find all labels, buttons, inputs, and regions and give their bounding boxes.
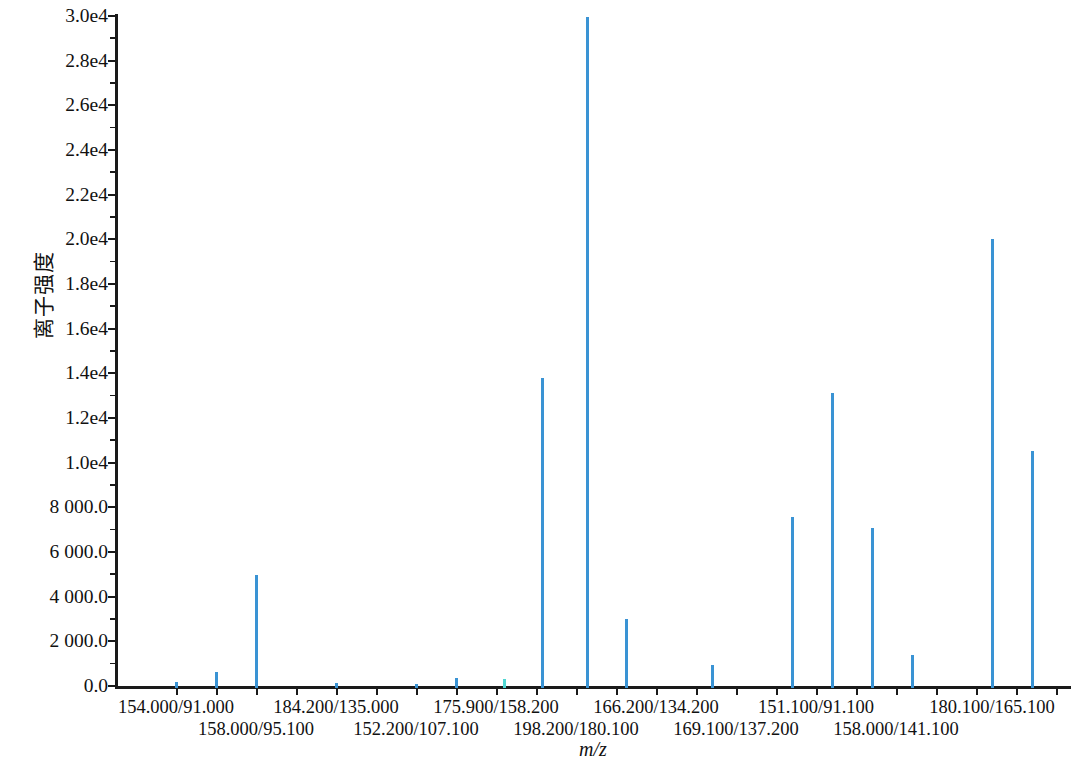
spectrum-peak <box>1031 451 1034 688</box>
y-axis-tick-label: 2.8e4 <box>2 51 108 71</box>
x-axis-tick <box>856 687 858 695</box>
y-axis-tick-label: 2.2e4 <box>2 185 108 205</box>
y-axis-tick-label: 2.6e4 <box>2 95 108 115</box>
spectrum-peak <box>871 528 874 688</box>
y-axis-tick-label: 0.0 <box>2 676 108 696</box>
y-axis-tick-label: 1.6e4 <box>2 319 108 339</box>
y-axis-tick-label: 3.0e4 <box>2 6 108 26</box>
spectrum-peak <box>831 393 834 688</box>
x-axis-line <box>115 686 1071 689</box>
x-axis-tick <box>576 687 578 695</box>
x-axis-tick <box>416 687 418 695</box>
y-axis-tick-label: 2 000.0 <box>2 631 108 651</box>
y-axis-tick-label: 8 000.0 <box>2 497 108 517</box>
x-axis-tick <box>376 687 378 695</box>
x-axis-tick <box>176 687 178 695</box>
x-axis-tick <box>536 687 538 695</box>
x-axis-tick-label: 180.100/165.100 <box>929 697 1054 717</box>
x-axis-tick <box>936 687 938 695</box>
spectrum-peak <box>911 655 914 689</box>
spectrum-peak <box>541 378 544 688</box>
y-axis-tick-label: 1.8e4 <box>2 274 108 294</box>
x-axis-tick <box>696 687 698 695</box>
spectrum-peak <box>791 517 794 688</box>
x-axis-tick <box>656 687 658 695</box>
x-axis-tick-label: 154.000/91.000 <box>118 697 234 717</box>
x-axis-tick <box>976 687 978 695</box>
y-axis-tick-label: 1.4e4 <box>2 363 108 383</box>
x-axis-tick-label: 152.200/107.100 <box>353 719 478 739</box>
y-axis-tick-label: 2.0e4 <box>2 229 108 249</box>
y-axis-tick-label: 1.0e4 <box>2 453 108 473</box>
x-axis-tick <box>256 687 258 695</box>
x-axis-tick <box>336 687 338 695</box>
y-axis-tick-layer: 3.0e42.8e42.6e42.4e42.2e42.0e41.8e41.6e4… <box>0 0 108 759</box>
y-axis-tick-label: 2.4e4 <box>2 140 108 160</box>
x-axis-tick <box>736 687 738 695</box>
x-axis-tick <box>1016 687 1018 695</box>
x-axis-tick <box>816 687 818 695</box>
x-axis-tick-label: 158.000/95.100 <box>198 719 314 739</box>
spectrum-peak <box>255 575 258 688</box>
x-axis-tick <box>216 687 218 695</box>
spectrum-peak <box>991 239 994 688</box>
x-axis-tick-label: 169.100/137.200 <box>673 719 798 739</box>
spectrum-peak <box>175 682 178 688</box>
x-axis-tick <box>896 687 898 695</box>
spectrum-peak <box>625 619 628 688</box>
spectrum-peak <box>455 678 458 688</box>
x-axis-tick-label: 166.200/134.200 <box>593 697 718 717</box>
y-axis-tick-label: 1.2e4 <box>2 408 108 428</box>
x-axis-tick-label: 184.200/135.000 <box>273 697 398 717</box>
x-axis-tick-label: 158.000/141.100 <box>833 719 958 739</box>
x-axis-tick <box>1056 687 1058 695</box>
mass-spectrum-chart: 离子强度 3.0e42.8e42.6e42.4e42.2e42.0e41.8e4… <box>0 0 1089 759</box>
y-axis-tick-label: 6 000.0 <box>2 542 108 562</box>
spectrum-peak <box>711 665 714 688</box>
x-axis-tick-label: 198.200/180.100 <box>513 719 638 739</box>
spectrum-peak <box>215 672 218 688</box>
x-axis-tick <box>616 687 618 695</box>
y-axis-line <box>115 14 118 688</box>
spectrum-peak <box>335 683 338 688</box>
x-axis-tick <box>496 687 498 695</box>
x-axis-tick <box>456 687 458 695</box>
spectrum-peak <box>586 17 589 688</box>
x-axis-title: m/z <box>115 738 1071 759</box>
x-axis-tick-label: 175.900/158.200 <box>433 697 558 717</box>
spectrum-peak <box>503 679 506 688</box>
spectrum-peak <box>415 684 418 688</box>
x-axis-tick <box>776 687 778 695</box>
x-axis-tick-label: 151.100/91.100 <box>758 697 874 717</box>
x-axis-tick <box>296 687 298 695</box>
y-axis-tick-label: 4 000.0 <box>2 587 108 607</box>
